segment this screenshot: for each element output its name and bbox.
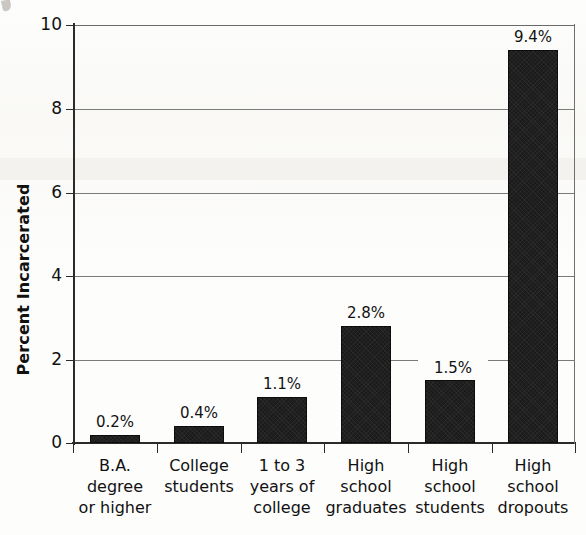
bar-college-students[interactable] — [174, 426, 224, 443]
x-tick-mark-2 — [241, 444, 242, 453]
y-axis-line — [73, 23, 75, 445]
bar-value-label-2: 1.1% — [250, 377, 314, 392]
x-category-label-4-line1: High — [402, 455, 498, 476]
x-tick-mark-4 — [408, 444, 409, 453]
y-tick-mark-4 — [66, 276, 75, 277]
x-category-label-5-line2: school — [485, 476, 581, 497]
x-category-label-1-line2: students — [151, 476, 247, 497]
x-tick-mark-0 — [73, 444, 74, 453]
y-tick-mark-8 — [66, 109, 75, 110]
bar-high-school-dropouts[interactable] — [508, 50, 558, 443]
plot-right-border — [574, 24, 575, 444]
y-tick-label-8: 8 — [22, 100, 62, 117]
chart-page: Percent Incarcerated 10 8 6 4 2 0 0.2% 0… — [0, 0, 586, 535]
bar-value-label-4: 1.5% — [418, 360, 488, 377]
bar-value-label-5: 9.4% — [501, 30, 565, 45]
bar-value-label-3: 2.8% — [334, 306, 398, 321]
x-category-label-3: High school graduates — [318, 455, 414, 518]
x-category-label-3-line3: graduates — [318, 497, 414, 518]
x-category-label-2-line3: college — [234, 497, 330, 518]
x-tick-mark-3 — [324, 444, 325, 453]
x-category-label-2: 1 to 3 years of college — [234, 455, 330, 518]
y-tick-label-2: 2 — [22, 351, 62, 368]
x-category-label-5-line3: dropouts — [485, 497, 581, 518]
x-category-label-0: B.A. degree or higher — [67, 455, 163, 518]
x-category-label-1-line1: College — [151, 455, 247, 476]
y-tick-label-6: 6 — [22, 184, 62, 201]
x-category-label-2-line1: 1 to 3 — [234, 455, 330, 476]
y-tick-label-10: 10 — [22, 16, 62, 33]
y-tick-label-0: 0 — [22, 434, 62, 451]
scan-smudge-artifact — [1, 0, 12, 12]
x-tick-mark-1 — [157, 444, 158, 453]
gridline-6 — [73, 193, 575, 194]
gridline-2 — [73, 360, 575, 361]
x-category-label-4-line3: students — [402, 497, 498, 518]
y-tick-mark-10 — [66, 25, 75, 26]
x-category-label-4-line2: school — [402, 476, 498, 497]
x-category-label-0-line3: or higher — [67, 497, 163, 518]
y-tick-mark-6 — [66, 193, 75, 194]
bar-value-label-0: 0.2% — [83, 415, 147, 430]
bar-value-label-1: 0.4% — [167, 406, 231, 421]
bar-high-school-students[interactable] — [425, 380, 475, 443]
x-category-label-5-line1: High — [485, 455, 581, 476]
gridline-8 — [73, 109, 575, 110]
x-category-label-2-line2: years of — [234, 476, 330, 497]
y-tick-label-4: 4 — [22, 267, 62, 284]
x-category-label-0-line1: B.A. — [67, 455, 163, 476]
gridline-10 — [73, 25, 575, 26]
x-category-label-0-line2: degree — [67, 476, 163, 497]
bar-high-school-graduates[interactable] — [341, 326, 391, 443]
x-tick-mark-5 — [492, 444, 493, 453]
x-category-label-3-line2: school — [318, 476, 414, 497]
x-category-label-1: College students — [151, 455, 247, 497]
scan-band-artifact — [0, 158, 586, 180]
x-tick-mark-6 — [575, 444, 576, 453]
x-category-label-3-line1: High — [318, 455, 414, 476]
bar-1-to-3-years-of-college[interactable] — [257, 397, 307, 443]
bar-ba-degree-or-higher[interactable] — [90, 435, 140, 443]
x-category-label-4: High school students — [402, 455, 498, 518]
gridline-4 — [73, 276, 575, 277]
y-tick-mark-2 — [66, 360, 75, 361]
x-category-label-5: High school dropouts — [485, 455, 581, 518]
